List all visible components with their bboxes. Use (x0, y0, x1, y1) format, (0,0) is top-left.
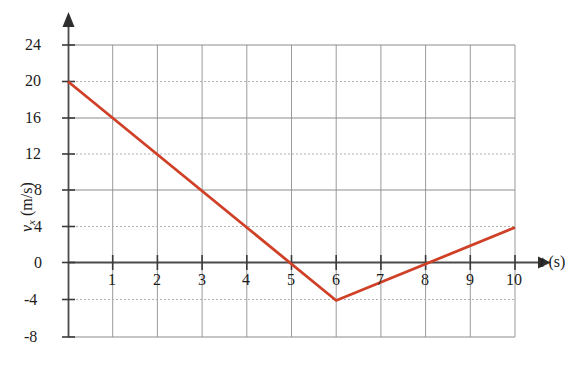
y-tick-label-24: 24 (25, 36, 41, 54)
velocity-time-graph: 24 20 16 12 8 4 0 -4 -8 1 2 3 4 5 6 7 8 … (0, 0, 587, 365)
x-tick-label-7: 7 (376, 271, 384, 289)
y-tick-label-12: 12 (25, 145, 41, 163)
y-axis-title: vx (m/s) (18, 182, 37, 232)
y-tick-label-0: 0 (34, 254, 42, 272)
x-tick-label-10: 10 (506, 271, 522, 289)
y-axis-title-symbol: v (18, 225, 35, 232)
x-tick-label-2: 2 (153, 271, 161, 289)
x-axis-title: t (s) (540, 253, 565, 271)
y-tick-label-neg4: -4 (24, 291, 37, 309)
y-tick-label-20: 20 (25, 72, 41, 90)
x-tick-label-8: 8 (421, 271, 429, 289)
x-axis-title-symbol: t (540, 253, 544, 270)
y-axis-title-units: (m/s) (18, 182, 35, 216)
x-tick-label-6: 6 (332, 271, 340, 289)
x-tick-label-1: 1 (108, 271, 116, 289)
y-tick-label-16: 16 (25, 109, 41, 127)
chart-svg (0, 0, 587, 365)
y-axis-title-subscript: x (25, 220, 37, 225)
x-tick-label-9: 9 (466, 271, 474, 289)
x-axis-title-units: (s) (548, 253, 565, 270)
x-tick-label-5: 5 (287, 271, 295, 289)
y-tick-label-neg8: -8 (24, 328, 37, 346)
x-tick-label-4: 4 (242, 271, 250, 289)
x-tick-label-3: 3 (198, 271, 206, 289)
